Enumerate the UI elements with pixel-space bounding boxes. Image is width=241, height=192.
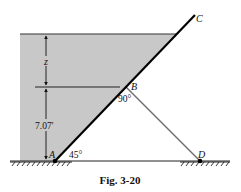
gate-diagram: z 7.07' C B 90° A 45° D Fig. 3-20 [0,0,241,192]
label-D: D [197,149,206,160]
ground-hatch-D [181,162,229,166]
ground-hatch-A [12,162,70,166]
label-C: C [196,13,203,24]
label-A: A [48,149,56,160]
label-7-07: 7.07' [35,121,54,131]
label-B: B [131,81,137,92]
label-angle-90: 90° [118,94,132,104]
label-z: z [43,56,48,67]
label-angle-45: 45° [69,150,83,160]
figure-caption: Fig. 3-20 [100,174,141,186]
water-region [20,34,175,161]
strut-BD [126,87,200,161]
